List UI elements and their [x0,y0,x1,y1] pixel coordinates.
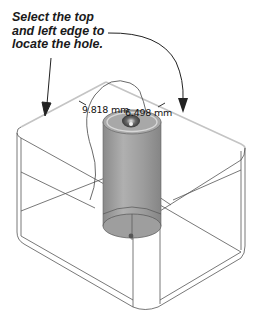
dimension-label-left: 9.818 mm [82,104,129,115]
arrow-to-left-edge [42,58,51,116]
instruction-callout: Select the top and left edge to locate t… [12,11,104,52]
cylinder-hole [103,110,161,240]
callout-line-1: Select the top [12,11,104,25]
dimension-label-top: 6.498 mm [125,107,172,118]
callout-line-2: and left edge to [12,25,104,39]
callout-line-3: locate the hole. [12,38,104,52]
figure-stage: Select the top and left edge to locate t… [0,0,258,330]
